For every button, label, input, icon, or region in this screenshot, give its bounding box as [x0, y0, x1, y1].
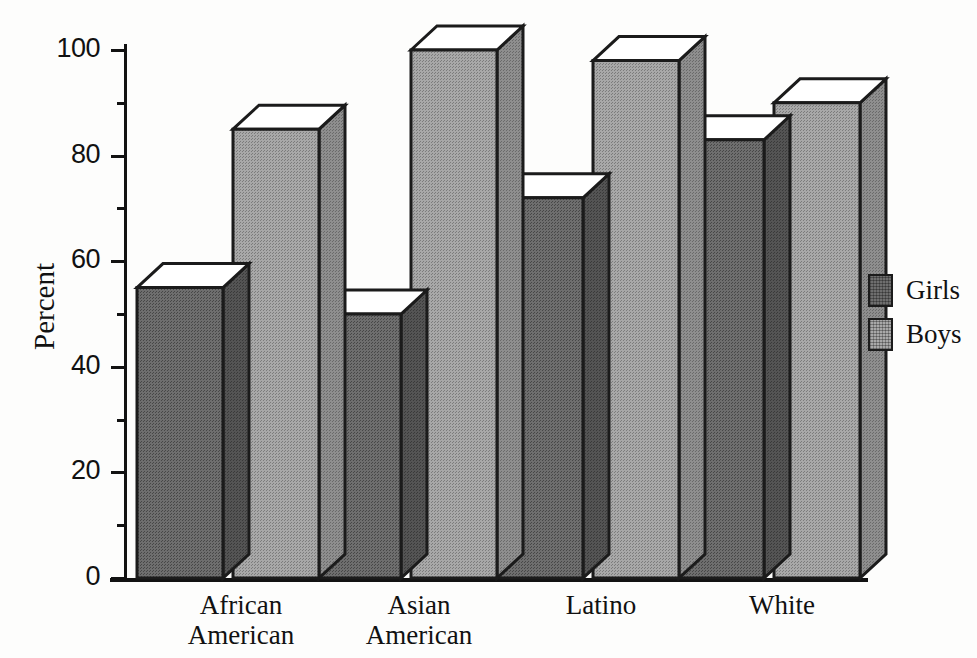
legend-label: Boys [906, 319, 962, 350]
bars-layer [0, 0, 977, 658]
bar-side-face [223, 264, 249, 578]
x-axis-label-asian-american: AsianAmerican [314, 590, 524, 650]
bar-side-face [679, 37, 705, 578]
bar-side-face [583, 174, 609, 578]
bar-front-face [137, 288, 223, 578]
legend-item-girls[interactable]: Girls [868, 268, 962, 312]
x-axis-label-line: American [314, 620, 524, 650]
chart-legend: GirlsBoys [868, 268, 962, 356]
bar-side-face [764, 116, 790, 578]
legend-swatch-boys [868, 318, 893, 351]
legend-swatch-girls [868, 274, 893, 307]
x-axis-label-line: Asian [314, 590, 524, 620]
x-axis-label-line: Latino [496, 590, 706, 620]
x-axis-label-line: White [677, 590, 887, 620]
legend-item-boys[interactable]: Boys [868, 312, 962, 356]
bar-girls [137, 264, 249, 578]
bar-side-face [497, 26, 523, 578]
bar-side-face [319, 105, 345, 578]
x-axis-label-white: White [677, 590, 887, 620]
bar-side-face [401, 290, 427, 578]
plot-area [0, 0, 977, 658]
bar-chart: Percent 020406080100 AfricanAmericanAsia… [0, 0, 977, 658]
x-axis-label-latino: Latino [496, 590, 706, 620]
legend-label: Girls [906, 275, 960, 306]
